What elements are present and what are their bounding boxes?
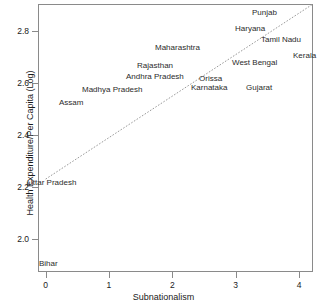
y-tick-mark	[32, 31, 38, 32]
data-point-label: Gujarat	[246, 84, 272, 92]
y-axis-title: Health Expenditure/Per Capita (Log)	[25, 53, 35, 233]
x-tick-mark	[236, 272, 237, 278]
scatter-chart: 2.02.22.42.62.8 01234 BiharUttar Pradesh…	[0, 0, 327, 307]
y-tick-label: 2.0	[17, 235, 29, 244]
data-point-label: Maharashtra	[155, 44, 200, 52]
data-point-label: Tamil Nadu	[261, 36, 301, 44]
x-tick-label: 1	[99, 281, 119, 290]
y-tick-mark	[32, 239, 38, 240]
y-tick-label: 2.8	[17, 27, 29, 36]
x-tick-label: 4	[289, 281, 309, 290]
x-tick-label: 0	[36, 281, 56, 290]
x-tick-mark	[46, 272, 47, 278]
data-point-label: Madhya Pradesh	[82, 86, 142, 94]
data-point-label: Kerala	[293, 52, 316, 60]
x-tick-mark	[172, 272, 173, 278]
x-axis-title: Subnationalism	[0, 292, 327, 302]
data-point-label: Rajasthan	[137, 62, 173, 70]
data-point-label: Andhra Pradesh	[126, 73, 184, 81]
data-point-label: Punjab	[252, 9, 277, 17]
x-tick-mark	[109, 272, 110, 278]
data-point-label: West Bengal	[232, 59, 277, 67]
data-point-label: Haryana	[235, 25, 265, 33]
data-point-label: Karnataka	[191, 84, 227, 92]
data-point-label: Bihar	[39, 260, 58, 268]
data-point-label: Orissa	[199, 75, 222, 83]
x-tick-label: 3	[226, 281, 246, 290]
data-point-label: Assam	[59, 99, 83, 107]
x-tick-label: 2	[162, 281, 182, 290]
x-tick-mark	[299, 272, 300, 278]
